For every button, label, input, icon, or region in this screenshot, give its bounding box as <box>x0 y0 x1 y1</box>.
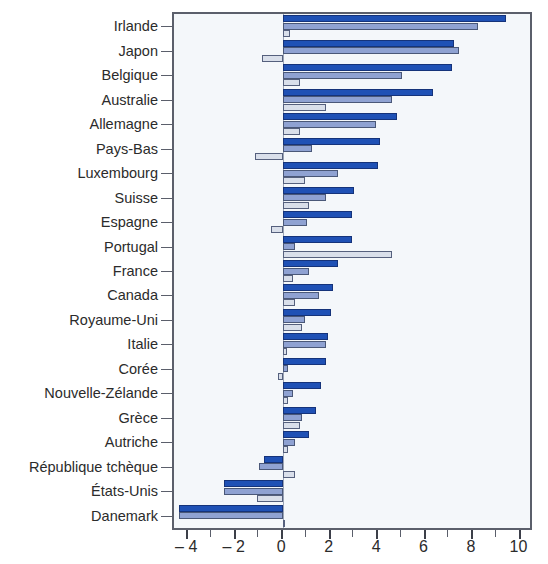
bar-group <box>174 138 530 160</box>
y-axis-tick <box>161 393 172 394</box>
y-axis-label: Danemark <box>91 508 158 524</box>
y-axis-tick <box>161 369 172 370</box>
y-axis-tick <box>161 247 172 248</box>
bar-group <box>174 309 530 331</box>
x-axis-label: – 4 <box>175 538 197 556</box>
bar <box>283 162 378 169</box>
bar <box>283 341 326 348</box>
bar <box>283 40 454 47</box>
bar <box>283 187 354 194</box>
bar <box>283 260 338 267</box>
y-axis-tick <box>161 467 172 468</box>
chart-title <box>150 0 540 5</box>
bar <box>283 236 352 243</box>
bar <box>283 30 290 37</box>
bar <box>283 324 302 331</box>
y-axis-label: Suisse <box>114 190 158 206</box>
bar <box>179 505 283 512</box>
y-axis-tick <box>161 491 172 492</box>
y-axis-label: Royaume-Uni <box>69 312 158 328</box>
bar <box>283 251 392 258</box>
bar <box>283 177 304 184</box>
y-axis-label: Autriche <box>105 434 158 450</box>
y-axis-label: Canada <box>107 287 158 303</box>
bar-group <box>174 89 530 111</box>
y-axis-label: France <box>113 263 158 279</box>
bar <box>283 15 506 22</box>
bar <box>283 145 311 152</box>
bar-group <box>174 64 530 86</box>
bar-group <box>174 382 530 404</box>
chart-root: IrlandeJaponBelgiqueAustralieAllemagnePa… <box>0 0 548 564</box>
y-axis-tick <box>161 344 172 345</box>
bar <box>283 520 285 527</box>
y-axis-tick <box>161 418 172 419</box>
y-axis-tick <box>161 295 172 296</box>
y-axis-tick <box>161 198 172 199</box>
x-axis-tick-minor <box>400 530 401 537</box>
x-axis-label: 0 <box>277 538 286 556</box>
bar <box>283 47 459 54</box>
y-axis-tick <box>161 222 172 223</box>
bar <box>283 439 295 446</box>
bar <box>283 358 326 365</box>
bar <box>255 153 283 160</box>
x-axis-label: 2 <box>324 538 333 556</box>
bar <box>283 299 295 306</box>
bar <box>283 202 309 209</box>
x-axis-tick-minor <box>352 530 353 537</box>
bar <box>283 431 309 438</box>
y-axis-label: Grèce <box>119 410 159 426</box>
bar <box>283 121 376 128</box>
bar <box>278 373 283 380</box>
bar <box>283 89 433 96</box>
bar <box>259 463 283 470</box>
y-axis-label: Portugal <box>104 239 158 255</box>
bar-group <box>174 358 530 380</box>
bar-group <box>174 431 530 453</box>
y-axis-label: Australie <box>102 92 158 108</box>
bar <box>283 382 321 389</box>
y-axis-tick <box>161 26 172 27</box>
bar-group <box>174 480 530 502</box>
y-axis-tick <box>161 516 172 517</box>
bar-group <box>174 211 530 233</box>
bar-group <box>174 40 530 62</box>
y-axis-label: Allemagne <box>89 116 158 132</box>
bar-group <box>174 187 530 209</box>
bar-group <box>174 407 530 429</box>
bar <box>283 219 307 226</box>
y-axis-tick <box>161 100 172 101</box>
x-axis-label: 8 <box>467 538 476 556</box>
bar <box>264 456 283 463</box>
y-axis-tick <box>161 271 172 272</box>
x-axis-label: 6 <box>419 538 428 556</box>
y-axis-tick <box>161 442 172 443</box>
x-axis-label: 4 <box>372 538 381 556</box>
bar <box>283 194 326 201</box>
bar <box>283 211 352 218</box>
bar <box>283 422 300 429</box>
bar-group <box>174 333 530 355</box>
bar <box>283 414 302 421</box>
bar <box>283 128 300 135</box>
y-axis-tick <box>161 173 172 174</box>
y-axis-label: États-Unis <box>91 483 158 499</box>
bar <box>283 79 300 86</box>
y-axis-label: Pays-Bas <box>96 141 158 157</box>
bar <box>283 284 333 291</box>
y-axis-label: Belgique <box>102 67 158 83</box>
y-axis-label: Luxembourg <box>77 165 158 181</box>
y-axis-label: Italie <box>127 336 158 352</box>
bar <box>283 446 288 453</box>
y-axis-tick <box>161 124 172 125</box>
bar <box>179 512 283 519</box>
bar <box>283 113 397 120</box>
bar-group <box>174 15 530 37</box>
bar <box>257 495 283 502</box>
bar <box>283 316 304 323</box>
bar-group <box>174 113 530 135</box>
x-axis-tick-minor <box>305 530 306 537</box>
bar <box>283 407 316 414</box>
bar <box>262 55 283 62</box>
